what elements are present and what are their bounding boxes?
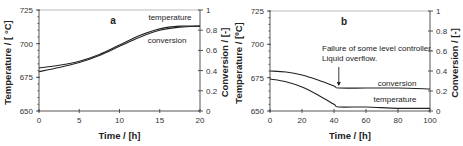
figure: 65067570072500.20.40.60.8105101520Time /… xyxy=(0,0,463,146)
chart-a: 65067570072500.20.40.60.8105101520Time /… xyxy=(2,6,230,141)
y-tick-label: 650 xyxy=(20,107,34,116)
x-tick-label: 15 xyxy=(155,116,164,125)
y2-axis-label: Conversion / [-] xyxy=(219,28,230,98)
chart-b: 65067570072500.20.40.60.81020406080100Ti… xyxy=(233,7,460,141)
x-tick-label: 20 xyxy=(196,116,205,125)
x-axis-label: Time / [h] xyxy=(98,130,140,141)
x-tick-label: 5 xyxy=(77,116,82,125)
x-tick-label: 60 xyxy=(362,116,371,125)
y2-tick-label: 0.6 xyxy=(436,47,448,56)
y-tick-label: 700 xyxy=(20,40,34,49)
y-axis-label: Temperature / [ºC] xyxy=(233,22,244,103)
panel-label: a xyxy=(110,15,116,26)
x-tick-label: 40 xyxy=(330,116,339,125)
x-tick-label: 10 xyxy=(115,116,124,125)
arrow-head-icon xyxy=(337,82,341,86)
y-tick-label: 650 xyxy=(251,107,265,116)
y-tick-label: 725 xyxy=(20,6,34,15)
y2-tick-label: 0 xyxy=(206,107,211,116)
series-label-conversion: conversion xyxy=(148,36,187,45)
x-tick-label: 0 xyxy=(268,116,273,125)
x-tick-label: 20 xyxy=(298,116,307,125)
y-tick-label: 700 xyxy=(251,40,265,49)
x-tick-label: 0 xyxy=(37,116,42,125)
y2-tick-label: 0.2 xyxy=(206,87,218,96)
y-tick-label: 675 xyxy=(251,74,265,83)
x-axis-label: Time / [h] xyxy=(329,130,371,141)
y2-axis-label: Conversion / [-] xyxy=(449,28,460,98)
annotation-text: Liquid overflow. xyxy=(322,54,377,63)
y-tick-label: 675 xyxy=(20,73,34,82)
x-tick-label: 80 xyxy=(394,116,403,125)
series-label-conversion: conversion xyxy=(378,79,417,88)
y2-tick-label: 1 xyxy=(436,7,441,16)
y2-tick-label: 0.4 xyxy=(206,67,218,76)
annotation-text: Failure of some level controller. xyxy=(322,44,433,53)
x-tick-label: 100 xyxy=(423,116,437,125)
y2-tick-label: 0.4 xyxy=(436,67,448,76)
y2-tick-label: 0 xyxy=(436,107,441,116)
y-tick-label: 725 xyxy=(251,7,265,16)
y2-tick-label: 0.8 xyxy=(436,27,448,36)
y2-tick-label: 0.6 xyxy=(206,46,218,55)
y2-tick-label: 1 xyxy=(206,6,211,15)
y2-tick-label: 0.2 xyxy=(436,87,448,96)
panel-label: b xyxy=(341,16,347,27)
series-label-temperature: temperature xyxy=(373,95,417,104)
y2-tick-label: 0.8 xyxy=(206,26,218,35)
y-axis-label: Temperature / [ °C] xyxy=(2,20,13,104)
series-label-temperature: temperature xyxy=(148,13,192,22)
